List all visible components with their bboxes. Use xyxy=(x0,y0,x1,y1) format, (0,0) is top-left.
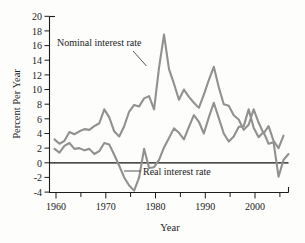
y-tick-label: 10 xyxy=(32,84,42,95)
x-tick-label: 1960 xyxy=(46,201,66,212)
y-tick-label: 0 xyxy=(37,158,42,169)
x-tick-label: 1990 xyxy=(195,201,215,212)
x-axis-title: Year xyxy=(160,222,180,233)
y-tick-label: 18 xyxy=(32,26,42,37)
y-tick-label: 12 xyxy=(32,70,42,81)
real-series-label: Real interest rate xyxy=(143,166,211,177)
y-tick-label: -2 xyxy=(34,172,42,183)
y-tick-label: 8 xyxy=(37,99,42,110)
y-tick-label: -4 xyxy=(34,187,42,198)
y-tick-label: 20 xyxy=(32,11,42,22)
y-tick-label: 16 xyxy=(32,40,42,51)
x-tick-label: 2000 xyxy=(245,201,265,212)
interest-rate-line-chart: 20 18 16 14 12 10 8 6 4 2 0 -2 -4 xyxy=(0,0,305,243)
nominal-series-label: Nominal interest rate xyxy=(57,37,142,48)
y-tick-label: 14 xyxy=(32,55,42,66)
chart-figure: 20 18 16 14 12 10 8 6 4 2 0 -2 -4 xyxy=(0,0,305,243)
y-tick-label: 4 xyxy=(37,128,42,139)
y-tick-label: 6 xyxy=(37,114,42,125)
y-tick-label: 2 xyxy=(37,143,42,154)
x-tick-label: 1980 xyxy=(146,201,166,212)
y-axis-title: Percent Per Year xyxy=(11,69,22,139)
x-tick-label: 1970 xyxy=(96,201,116,212)
